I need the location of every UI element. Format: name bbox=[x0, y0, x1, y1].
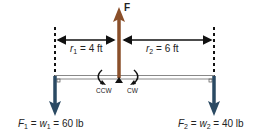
r2-label: r2 = 6 ft bbox=[146, 43, 179, 55]
w2-var: w bbox=[199, 118, 206, 129]
r2-value: = 6 ft bbox=[153, 43, 178, 54]
f2-value: = 40 lb bbox=[211, 118, 244, 129]
f1-eq1: = bbox=[28, 118, 39, 129]
w1-var: w bbox=[39, 118, 46, 129]
force-f-label: F bbox=[124, 2, 130, 13]
f2-eq1: = bbox=[188, 118, 199, 129]
r1-value: = 4 ft bbox=[77, 43, 102, 54]
lever-beam bbox=[55, 76, 214, 80]
f1-label: F1 = w1 = 60 lb bbox=[18, 118, 84, 130]
r1-label: r1 = 4 ft bbox=[70, 43, 103, 55]
cw-text: CW bbox=[127, 87, 138, 94]
force-f-text: F bbox=[124, 2, 130, 13]
f1-value: = 60 lb bbox=[51, 118, 84, 129]
ccw-label: CCW bbox=[96, 87, 112, 94]
f2-label: F2 = w2 = 40 lb bbox=[178, 118, 244, 130]
cw-label: CW bbox=[127, 87, 138, 94]
ccw-text: CCW bbox=[96, 87, 112, 94]
